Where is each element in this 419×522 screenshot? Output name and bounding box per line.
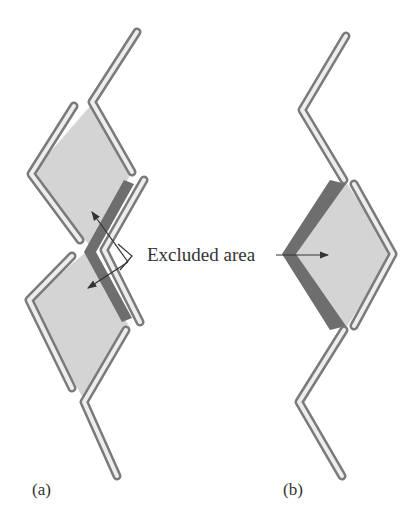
panel-b-label: (b)	[283, 480, 303, 500]
panel-b	[276, 36, 393, 476]
panel-a	[29, 32, 144, 476]
panel-a-label: (a)	[32, 480, 51, 500]
excluded-area-label: Excluded area	[147, 244, 255, 266]
